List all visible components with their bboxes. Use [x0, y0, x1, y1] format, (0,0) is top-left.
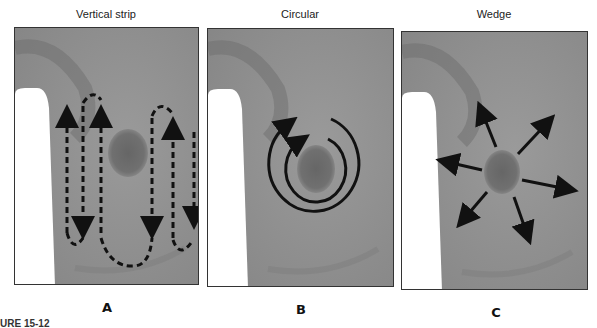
arm-shape: [402, 92, 442, 290]
panel-c-letter: C: [481, 305, 511, 320]
lump: [297, 145, 335, 193]
panel-b-letter: B: [286, 302, 316, 317]
wedge-illustration: [402, 32, 588, 290]
panel-c-title: Wedge: [414, 8, 574, 20]
panel-c-wedge: [401, 31, 588, 290]
panel-a-letter: A: [92, 300, 122, 315]
circular-illustration: [208, 29, 394, 287]
vertical-strip-illustration: [15, 28, 199, 285]
panel-a-title: Vertical strip: [26, 8, 186, 20]
panel-b-circular: [207, 28, 394, 287]
lump: [108, 129, 148, 177]
lump: [484, 150, 520, 194]
figure-caption: URE 15-12: [0, 318, 49, 328]
arm-shape: [15, 88, 55, 285]
panel-a-vertical-strip: [14, 27, 199, 285]
panel-b-title: Circular: [220, 8, 380, 20]
arm-shape: [208, 89, 248, 287]
